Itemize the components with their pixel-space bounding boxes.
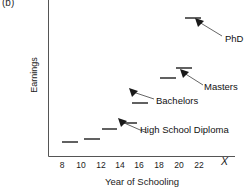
x-tick-label-16: 16 [131,160,147,170]
x-tick-label-12: 12 [93,160,109,170]
arrowhead-masters [180,69,189,78]
arrowhead-phd [195,18,204,27]
annotation-label-bachelors: Bachelors [156,95,198,106]
x-tick-label-22: 22 [191,160,207,170]
annotation-arrowheads [118,18,204,127]
leader-line-bachelors [133,92,154,99]
x-axis-variable: X [221,155,228,167]
leader-line-phd [199,22,222,36]
annotation-label-highschool: High School Diploma [140,124,229,135]
x-tick-label-20: 20 [171,160,187,170]
x-tick-label-14: 14 [112,160,128,170]
earnings-schooling-chart: (b) Earnings [0,0,246,193]
x-tick-label-10: 10 [73,160,89,170]
x-axis-title: Year of Schooling [48,176,236,187]
leader-line-masters [184,73,203,85]
annotation-label-masters: Masters [204,81,238,92]
annotation-label-phd: PhD [225,33,243,44]
x-tick-label-8: 8 [54,160,70,170]
arrowhead-bachelors [129,88,138,97]
x-tick-label-18: 18 [151,160,167,170]
